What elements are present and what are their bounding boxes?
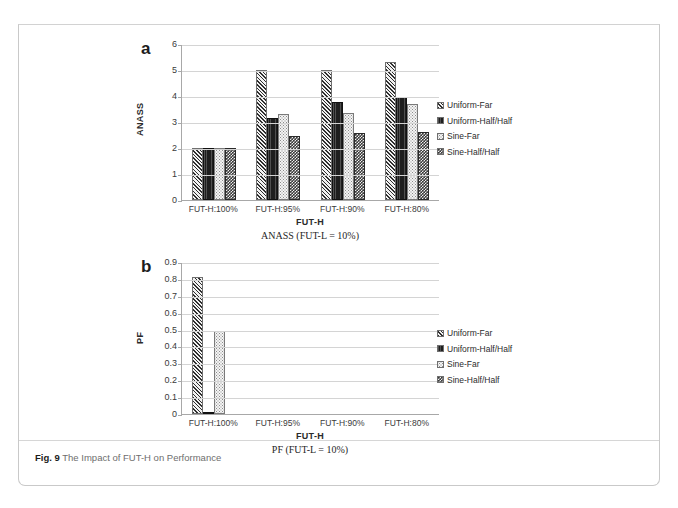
- axis-tick-mark: [178, 149, 182, 150]
- y-axis-ticks-b: 00.10.20.30.40.50.60.70.80.9: [153, 263, 177, 415]
- x-tick-label: FUT-H:100%: [181, 204, 246, 214]
- caption-separator: [19, 440, 659, 441]
- figure-caption: Fig. 9 The Impact of FUT-H on Performanc…: [35, 452, 221, 463]
- y-tick-label: 0.5: [164, 326, 177, 335]
- legend-item[interactable]: Sine-Half/Half: [437, 148, 512, 157]
- gridline: [182, 71, 439, 72]
- dark-checker-swatch: [437, 376, 444, 383]
- gridline: [182, 314, 439, 315]
- bar-uniform-half-half: [203, 412, 214, 414]
- bar-group: [246, 263, 310, 414]
- x-axis-title-a: FUT-H: [181, 217, 439, 227]
- legend-item[interactable]: Uniform-Half/Half: [437, 117, 512, 126]
- y-tick-label: 5: [172, 66, 177, 75]
- legend-label: Uniform-Far: [447, 329, 492, 338]
- bar-sine-far: [214, 331, 225, 414]
- figure-number: Fig. 9: [35, 452, 60, 463]
- y-tick-label: 4: [172, 92, 177, 101]
- axis-tick-mark: [178, 201, 182, 202]
- legend-b: Uniform-FarUniform-Half/HalfSine-FarSine…: [437, 329, 512, 391]
- gridline: [182, 149, 439, 150]
- bar-sine-far: [278, 114, 289, 200]
- bar-sine-half-half: [289, 136, 300, 200]
- gridline: [182, 364, 439, 365]
- gridline: [182, 331, 439, 332]
- bar-groups-b: [182, 263, 439, 414]
- gridline: [182, 263, 439, 264]
- bar-uniform-far: [256, 70, 267, 200]
- axis-tick-mark: [178, 314, 182, 315]
- legend-item[interactable]: Uniform-Half/Half: [437, 345, 512, 354]
- chart-panel-b: b PF 00.10.20.30.40.50.60.70.80.9 FUT-H:…: [119, 247, 539, 462]
- y-tick-label: 0: [172, 410, 177, 419]
- sub-caption-a: ANASS (FUT-L = 10%): [141, 230, 479, 241]
- light-dotted-swatch: [437, 133, 444, 140]
- y-axis-title-a: ANASS: [135, 102, 145, 136]
- legend-label: Sine-Far: [447, 132, 480, 141]
- legend-label: Sine-Half/Half: [447, 148, 499, 157]
- axis-tick-mark: [178, 97, 182, 98]
- bar-uniform-far: [385, 62, 396, 200]
- gridline: [182, 398, 439, 399]
- bar-group: [375, 263, 439, 414]
- gridline: [182, 97, 439, 98]
- axis-tick-mark: [178, 347, 182, 348]
- gridline: [182, 45, 439, 46]
- x-axis-ticks-a: FUT-H:100%FUT-H:95%FUT-H:90%FUT-H:80%: [181, 204, 439, 214]
- bar-sine-half-half: [225, 148, 236, 200]
- bar-sine-far: [214, 148, 225, 200]
- y-tick-label: 0.3: [164, 359, 177, 368]
- x-tick-label: FUT-H:95%: [246, 418, 311, 428]
- bar-uniform-far: [321, 70, 332, 200]
- y-tick-label: 3: [172, 118, 177, 127]
- plot-wrap-b: PF 00.10.20.30.40.50.60.70.80.9 FUT-H:10…: [119, 247, 449, 462]
- y-tick-label: 0.9: [164, 258, 177, 267]
- legend-item[interactable]: Sine-Half/Half: [437, 376, 512, 385]
- y-tick-label: 2: [172, 144, 177, 153]
- gridline: [182, 175, 439, 176]
- figure-card: a ANASS 0123456 FUT-H:100%FUT-H:95%FUT-H…: [18, 24, 660, 486]
- y-tick-label: 0.2: [164, 376, 177, 385]
- legend-item[interactable]: Sine-Far: [437, 132, 512, 141]
- legend-label: Uniform-Half/Half: [447, 345, 512, 354]
- x-tick-label: FUT-H:80%: [375, 204, 440, 214]
- axis-tick-mark: [178, 175, 182, 176]
- axis-tick-mark: [178, 381, 182, 382]
- figure-caption-text: The Impact of FUT-H on Performance: [62, 452, 221, 463]
- axis-tick-mark: [178, 398, 182, 399]
- legend-item[interactable]: Uniform-Far: [437, 101, 512, 110]
- axis-tick-mark: [178, 415, 182, 416]
- x-axis-ticks-b: FUT-H:100%FUT-H:95%FUT-H:90%FUT-H:80%: [181, 418, 439, 428]
- light-dotted-swatch: [437, 361, 444, 368]
- axis-tick-mark: [178, 364, 182, 365]
- y-tick-label: 0.7: [164, 292, 177, 301]
- legend-label: Sine-Far: [447, 360, 480, 369]
- legend-item[interactable]: Sine-Far: [437, 360, 512, 369]
- y-tick-label: 1: [172, 170, 177, 179]
- solid-dark-swatch: [437, 345, 444, 352]
- gridline: [182, 381, 439, 382]
- bar-group: [311, 263, 375, 414]
- bar-uniform-half-half: [203, 148, 214, 200]
- bar-sine-half-half: [418, 132, 429, 200]
- x-tick-label: FUT-H:100%: [181, 418, 246, 428]
- chart-panel-a: a ANASS 0123456 FUT-H:100%FUT-H:95%FUT-H…: [119, 31, 539, 246]
- bar-uniform-far: [192, 148, 203, 200]
- y-tick-label: 0.8: [164, 275, 177, 284]
- bar-sine-half-half: [354, 133, 365, 200]
- plot-wrap-a: ANASS 0123456 FUT-H:100%FUT-H:95%FUT-H:9…: [119, 31, 449, 246]
- gridline: [182, 297, 439, 298]
- bar-group: [182, 263, 246, 414]
- plot-area-a: [181, 45, 439, 201]
- dark-checker-swatch: [437, 148, 444, 155]
- legend-label: Sine-Half/Half: [447, 376, 499, 385]
- bar-uniform-half-half: [267, 118, 278, 200]
- legend-label: Uniform-Far: [447, 101, 492, 110]
- gridline: [182, 347, 439, 348]
- legend-item[interactable]: Uniform-Far: [437, 329, 512, 338]
- diagonal-hatch-swatch: [437, 330, 444, 337]
- legend-label: Uniform-Half/Half: [447, 117, 512, 126]
- bar-sine-far: [407, 104, 418, 200]
- axis-tick-mark: [178, 297, 182, 298]
- x-tick-label: FUT-H:90%: [310, 204, 375, 214]
